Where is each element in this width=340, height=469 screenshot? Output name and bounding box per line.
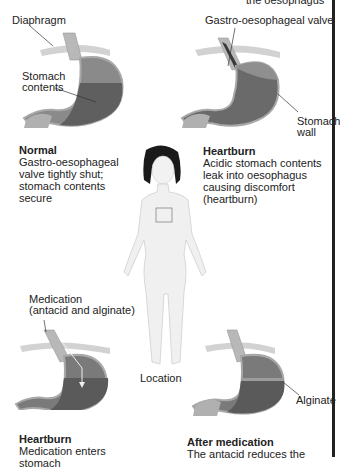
label-location: Location <box>140 372 182 384</box>
label-medication-2: (antacid and alginate) <box>29 304 135 316</box>
caption-heartburn: Heartburn Acidic stomach contents leak i… <box>203 145 333 205</box>
caption-title: Heartburn <box>203 145 333 157</box>
label-diaphragm: Diaphragm <box>12 14 66 26</box>
label-alginate: Alginate <box>296 394 336 406</box>
caption-title: After medication <box>187 436 327 448</box>
label-stomach-wall-2: wall <box>297 126 316 138</box>
label-stomach-contents-2: contents <box>22 81 64 93</box>
caption-after-medication: After medication The antacid reduces the <box>187 436 327 460</box>
label-gastro-oesophageal-valve: Gastro-oesophageal valve <box>205 14 333 26</box>
caption-title: Heartburn <box>19 433 149 445</box>
caption-heartburn-medication: Heartburn Medication enters stomach <box>19 433 149 469</box>
stomach-medication-illustration <box>0 320 140 410</box>
